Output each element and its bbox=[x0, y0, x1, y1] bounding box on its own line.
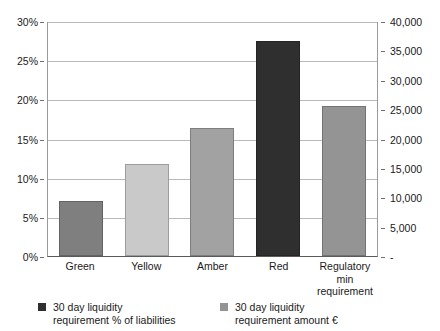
y-axis-right-tickmark bbox=[381, 81, 385, 82]
y-axis-left-tick: 10% bbox=[17, 173, 38, 185]
bar[interactable] bbox=[125, 164, 169, 256]
x-axis-labels: GreenYellowAmberRedRegulatory min requir… bbox=[47, 260, 378, 298]
x-axis-label: Regulatory min requirement bbox=[312, 260, 378, 298]
chart-legend: 30 day liquidity requirement % of liabil… bbox=[0, 298, 440, 331]
bar[interactable] bbox=[256, 41, 300, 256]
y-axis-right-tick: 30,000 bbox=[390, 75, 422, 87]
y-axis-left-tickmark bbox=[40, 257, 44, 258]
legend-label: 30 day liquidity requirement amount € bbox=[235, 301, 338, 326]
y-axis-right-tickmark bbox=[381, 257, 385, 258]
y-axis-left-tickmark bbox=[40, 218, 44, 219]
y-axis-right-tickmark bbox=[381, 51, 385, 52]
y-axis-right-tickmark bbox=[381, 198, 385, 199]
y-axis-left-tick: 25% bbox=[17, 55, 38, 67]
x-axis-label: Red bbox=[246, 260, 312, 298]
y-axis-right-tick: 25,000 bbox=[390, 104, 422, 116]
y-axis-right-tickmark bbox=[381, 110, 385, 111]
bar-group bbox=[48, 22, 377, 256]
bar[interactable] bbox=[190, 128, 234, 256]
y-axis-left-tick: 30% bbox=[17, 16, 38, 28]
y-axis-left: 0%5%10%15%20%25%30% bbox=[0, 22, 44, 257]
y-axis-left-tick: 15% bbox=[17, 134, 38, 146]
plot-area bbox=[47, 22, 378, 257]
y-axis-left-tickmark bbox=[40, 22, 44, 23]
y-axis-right-tickmark bbox=[381, 140, 385, 141]
bar[interactable] bbox=[322, 106, 366, 256]
bar-slot bbox=[48, 22, 114, 256]
legend-label: 30 day liquidity requirement % of liabil… bbox=[53, 301, 176, 326]
bar-slot bbox=[245, 22, 311, 256]
y-axis-left-tick: 0% bbox=[23, 251, 38, 263]
y-axis-right-tick: 15,000 bbox=[390, 163, 422, 175]
legend-item[interactable]: 30 day liquidity requirement amount € bbox=[220, 301, 338, 326]
y-axis-right-tick: 35,000 bbox=[390, 45, 422, 57]
y-axis-left-tickmark bbox=[40, 140, 44, 141]
y-axis-left-tick: 5% bbox=[23, 212, 38, 224]
y-axis-right-tickmark bbox=[381, 169, 385, 170]
bar-chart: 0%5%10%15%20%25%30% -5,00010,00015,00020… bbox=[0, 0, 440, 331]
y-axis-right: -5,00010,00015,00020,00025,00030,00035,0… bbox=[381, 22, 439, 257]
y-axis-left-tick: 20% bbox=[17, 94, 38, 106]
bar-slot bbox=[114, 22, 180, 256]
x-axis-label: Yellow bbox=[113, 260, 179, 298]
legend-swatch-icon bbox=[220, 303, 228, 311]
y-axis-right-tickmark bbox=[381, 228, 385, 229]
x-axis-label: Green bbox=[47, 260, 113, 298]
y-axis-right-tick: 20,000 bbox=[390, 134, 422, 146]
bar[interactable] bbox=[59, 201, 103, 256]
y-axis-right-tick: 5,000 bbox=[390, 222, 416, 234]
bar-slot bbox=[180, 22, 246, 256]
y-axis-left-tickmark bbox=[40, 100, 44, 101]
y-axis-right-tick: - bbox=[390, 251, 394, 263]
legend-swatch-icon bbox=[38, 303, 46, 311]
y-axis-left-tickmark bbox=[40, 179, 44, 180]
legend-item[interactable]: 30 day liquidity requirement % of liabil… bbox=[38, 301, 176, 326]
x-axis-label: Amber bbox=[179, 260, 245, 298]
y-axis-left-tickmark bbox=[40, 61, 44, 62]
y-axis-right-tick: 40,000 bbox=[390, 16, 422, 28]
y-axis-right-tickmark bbox=[381, 22, 385, 23]
plot-wrapper bbox=[47, 22, 378, 257]
y-axis-right-tick: 10,000 bbox=[390, 192, 422, 204]
bar-slot bbox=[311, 22, 377, 256]
